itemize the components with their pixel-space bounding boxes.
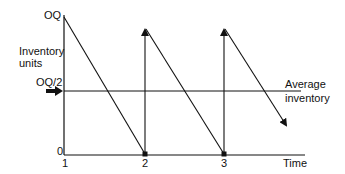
x-tick-3: 3 <box>221 157 227 169</box>
depletion-line-1 <box>64 17 145 154</box>
average-inventory-label-line2: inventory <box>285 92 330 104</box>
y-tick-oq: OQ <box>44 9 61 21</box>
x-axis-label: Time <box>283 157 307 169</box>
reorder-point-2 <box>143 152 148 157</box>
x-tick-2: 2 <box>142 157 148 169</box>
y-axis-label-line2: units <box>19 57 42 69</box>
x-tick-1: 1 <box>62 157 68 169</box>
y-axis-label-line1: Inventory <box>19 45 64 57</box>
average-inventory-label-line1: Average <box>285 78 326 90</box>
y-tick-zero: 0 <box>57 145 63 157</box>
depletion-line-3 <box>225 29 286 125</box>
reorder-point-3 <box>222 152 227 157</box>
y-tick-oq-half: OQ/2 <box>36 76 62 88</box>
